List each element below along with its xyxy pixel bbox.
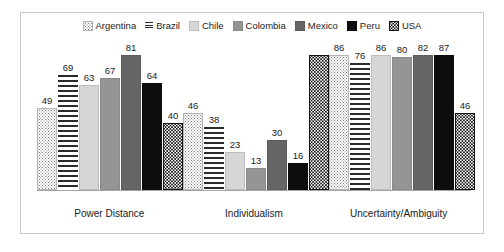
bar-group-power-distance: 49696367816440 bbox=[37, 43, 183, 190]
bar-slot-chile-uncertainty-ambiguity: 86 bbox=[371, 43, 391, 190]
bar-value-label: 76 bbox=[355, 51, 366, 61]
legend-label-brazil: Brazil bbox=[156, 21, 180, 31]
bar-colombia[interactable] bbox=[100, 78, 120, 190]
bar-group-uncertainty-ambiguity: 86768680828746 bbox=[329, 43, 475, 190]
category-label-uncertainty-ambiguity: Uncertainty/Ambiguity bbox=[326, 209, 471, 219]
bar-slot-usa-power-distance: 40 bbox=[163, 43, 183, 190]
bar-brazil[interactable] bbox=[204, 127, 224, 190]
bar-peru[interactable] bbox=[288, 163, 308, 190]
bar-chile[interactable] bbox=[371, 55, 391, 191]
plot-area: 49696367816440463823133016 8676868082874… bbox=[37, 43, 471, 191]
legend-item-argentina[interactable]: Argentina bbox=[83, 21, 137, 31]
bar-value-label: 30 bbox=[272, 128, 283, 138]
bar-usa[interactable] bbox=[309, 55, 329, 191]
bar-value-label: 13 bbox=[251, 156, 262, 166]
bar-value-label: 87 bbox=[439, 43, 450, 53]
bar-mexico[interactable] bbox=[267, 140, 287, 190]
bar-colombia[interactable] bbox=[392, 57, 412, 190]
bar-value-label: 49 bbox=[42, 96, 53, 106]
bar-value-label: 64 bbox=[147, 71, 158, 81]
bar-value-label: 38 bbox=[209, 115, 220, 125]
legend-swatch-argentina-icon bbox=[83, 21, 93, 31]
legend-swatch-brazil-icon bbox=[145, 22, 153, 30]
bar-peru[interactable] bbox=[142, 83, 162, 190]
bar-value-label: 63 bbox=[84, 73, 95, 83]
legend-swatch-chile-icon bbox=[189, 21, 199, 31]
legend-label-mexico: Mexico bbox=[308, 21, 338, 31]
bar-group-individualism: 463823133016 bbox=[183, 43, 329, 190]
category-label-individualism: Individualism bbox=[182, 209, 327, 219]
bar-slot-usa-individualism bbox=[309, 43, 329, 190]
bar-slot-chile-power-distance: 63 bbox=[79, 43, 99, 190]
legend-item-colombia[interactable]: Colombia bbox=[233, 21, 286, 31]
bar-value-label: 23 bbox=[230, 140, 241, 150]
bar-slot-brazil-power-distance: 69 bbox=[58, 43, 78, 190]
legend-label-colombia: Colombia bbox=[246, 21, 286, 31]
bar-value-label: 67 bbox=[105, 66, 116, 76]
bar-slot-chile-individualism: 23 bbox=[225, 43, 245, 190]
category-label-power-distance: Power Distance bbox=[37, 209, 182, 219]
bar-mexico[interactable] bbox=[413, 55, 433, 190]
bar-colombia[interactable] bbox=[246, 168, 266, 190]
legend-label-usa: USA bbox=[402, 21, 422, 31]
bar-slot-usa-uncertainty-ambiguity: 46 bbox=[455, 43, 475, 190]
x-axis-line bbox=[37, 190, 471, 191]
legend-label-chile: Chile bbox=[202, 21, 224, 31]
bar-value-label: 86 bbox=[334, 43, 345, 53]
bar-slot-mexico-individualism: 30 bbox=[267, 43, 287, 190]
bar-groups: 49696367816440463823133016 8676868082874… bbox=[37, 43, 471, 190]
bar-value-label: 16 bbox=[293, 151, 304, 161]
chart-frame: Argentina Brazil Chile Colombia Mexico P… bbox=[20, 12, 484, 234]
bar-value-label: 80 bbox=[397, 45, 408, 55]
category-axis-labels: Power Distance Individualism Uncertainty… bbox=[37, 209, 471, 219]
bar-slot-brazil-individualism: 38 bbox=[204, 43, 224, 190]
legend-item-mexico[interactable]: Mexico bbox=[295, 21, 338, 31]
bar-slot-argentina-uncertainty-ambiguity: 86 bbox=[329, 43, 349, 190]
legend-item-brazil[interactable]: Brazil bbox=[145, 21, 180, 31]
chart-legend: Argentina Brazil Chile Colombia Mexico P… bbox=[21, 21, 483, 31]
bar-usa[interactable] bbox=[163, 123, 183, 190]
bar-brazil[interactable] bbox=[350, 63, 370, 190]
bar-brazil[interactable] bbox=[58, 75, 78, 190]
bar-value-label: 40 bbox=[168, 111, 179, 121]
bar-slot-argentina-individualism: 46 bbox=[183, 43, 203, 190]
legend-item-chile[interactable]: Chile bbox=[189, 21, 224, 31]
bar-value-label: 46 bbox=[188, 101, 199, 111]
bar-slot-peru-power-distance: 64 bbox=[142, 43, 162, 190]
bar-argentina[interactable] bbox=[329, 55, 349, 191]
bar-slot-mexico-uncertainty-ambiguity: 82 bbox=[413, 43, 433, 190]
bar-slot-colombia-individualism: 13 bbox=[246, 43, 266, 190]
bar-slot-colombia-power-distance: 67 bbox=[100, 43, 120, 190]
bar-slot-colombia-uncertainty-ambiguity: 80 bbox=[392, 43, 412, 190]
bar-value-label: 82 bbox=[418, 43, 429, 53]
legend-label-peru: Peru bbox=[360, 21, 380, 31]
bar-slot-mexico-power-distance: 81 bbox=[121, 43, 141, 190]
bar-slot-peru-uncertainty-ambiguity: 87 bbox=[434, 43, 454, 190]
bar-value-label: 86 bbox=[376, 43, 387, 53]
bar-value-label: 81 bbox=[126, 43, 137, 53]
bar-argentina[interactable] bbox=[183, 113, 203, 190]
bar-slot-peru-individualism: 16 bbox=[288, 43, 308, 190]
legend-label-argentina: Argentina bbox=[96, 21, 137, 31]
bar-value-label: 46 bbox=[460, 101, 471, 111]
legend-swatch-colombia-icon bbox=[233, 21, 243, 31]
legend-swatch-peru-icon bbox=[347, 21, 357, 31]
bar-value-label: 69 bbox=[63, 63, 74, 73]
bar-slot-argentina-power-distance: 49 bbox=[37, 43, 57, 190]
legend-item-usa[interactable]: USA bbox=[389, 21, 422, 31]
legend-swatch-usa-icon bbox=[389, 21, 399, 31]
bar-argentina[interactable] bbox=[37, 108, 57, 190]
legend-item-peru[interactable]: Peru bbox=[347, 21, 380, 31]
bar-slot-brazil-uncertainty-ambiguity: 76 bbox=[350, 43, 370, 190]
bar-mexico[interactable] bbox=[121, 55, 141, 190]
bar-usa[interactable] bbox=[455, 113, 475, 190]
bar-chile[interactable] bbox=[79, 85, 99, 190]
bar-peru[interactable] bbox=[434, 55, 454, 191]
legend-swatch-mexico-icon bbox=[295, 21, 305, 31]
bar-chile[interactable] bbox=[225, 152, 245, 190]
